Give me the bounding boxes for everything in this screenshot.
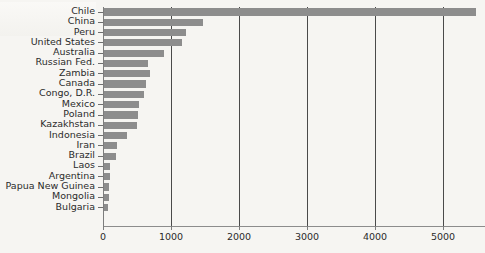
x-tick-mark — [307, 226, 308, 230]
bar — [104, 132, 127, 139]
x-tick-mark — [375, 226, 376, 230]
y-tick-mark — [98, 42, 103, 43]
y-tick-mark — [98, 207, 103, 208]
y-tick-mark — [98, 104, 103, 105]
x-tick-label: 4000 — [363, 231, 387, 242]
y-tick-mark — [98, 135, 103, 136]
y-tick-mark — [98, 156, 103, 157]
bar — [104, 39, 182, 46]
bar-row: Bulgaria — [0, 203, 485, 213]
x-tick-label: 1000 — [159, 231, 183, 242]
y-tick-mark — [98, 32, 103, 33]
y-tick-mark — [98, 94, 103, 95]
x-tick-label: 2000 — [227, 231, 251, 242]
y-tick-mark — [98, 166, 103, 167]
bar — [104, 101, 139, 108]
x-tick-mark — [443, 226, 444, 230]
bar — [104, 50, 164, 57]
bar — [104, 91, 144, 98]
bar — [104, 111, 138, 118]
bar — [104, 204, 108, 211]
x-tick-label: 3000 — [295, 231, 319, 242]
y-tick-mark — [98, 125, 103, 126]
x-tick-label: 5000 — [431, 231, 455, 242]
y-tick-mark — [98, 73, 103, 74]
y-tick-mark — [98, 12, 103, 13]
x-tick-mark — [239, 226, 240, 230]
bar — [104, 8, 476, 15]
x-tick-label: 0 — [100, 231, 106, 242]
bar — [104, 29, 186, 36]
y-tick-mark — [98, 187, 103, 188]
y-tick-mark — [98, 22, 103, 23]
bar — [104, 194, 109, 201]
y-tick-mark — [98, 84, 103, 85]
x-axis: 010002000300040005000 — [0, 226, 485, 253]
y-tick-mark — [98, 63, 103, 64]
y-tick-mark — [98, 115, 103, 116]
bar-chart: ChileChinaPeruUnited StatesAustraliaRuss… — [0, 0, 485, 253]
y-tick-mark — [98, 176, 103, 177]
bar — [104, 122, 137, 129]
y-tick-mark — [98, 145, 103, 146]
bar — [104, 19, 203, 26]
bar — [104, 153, 116, 160]
bar — [104, 183, 109, 190]
bar — [104, 173, 110, 180]
bar — [104, 60, 148, 67]
x-tick-mark — [103, 226, 104, 230]
x-tick-mark — [171, 226, 172, 230]
bar — [104, 163, 110, 170]
bar-rows: ChileChinaPeruUnited StatesAustraliaRuss… — [0, 7, 485, 226]
bar — [104, 70, 150, 77]
category-label: Bulgaria — [0, 202, 95, 213]
y-tick-mark — [98, 53, 103, 54]
bar — [104, 142, 117, 149]
y-tick-mark — [98, 197, 103, 198]
bar — [104, 80, 146, 87]
